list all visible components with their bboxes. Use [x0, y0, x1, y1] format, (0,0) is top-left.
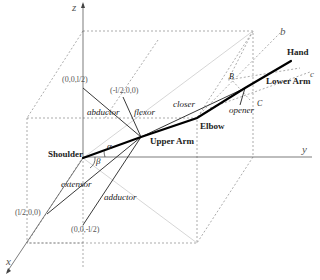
- coord-neg-x-half: (-l/2,0,0): [110, 87, 138, 95]
- coord-z-half: (0,0,l/2): [62, 76, 88, 84]
- adductor-label: adductor: [104, 193, 137, 202]
- alpha-arc: [104, 151, 105, 157]
- x-axis-arrow: [6, 268, 11, 274]
- extensor-label: extensor: [61, 180, 92, 189]
- hand-label: Hand: [287, 48, 309, 57]
- opener-label: opener: [229, 106, 254, 115]
- x-axis-label: x: [6, 256, 11, 267]
- b-axis-label: b: [280, 26, 286, 37]
- point-b-label: B: [229, 73, 234, 81]
- flexor-label: flexor: [134, 108, 155, 117]
- beta-label: β: [96, 157, 100, 166]
- coord-x-half: (l/2,0,0): [15, 209, 41, 217]
- abductor-label: abductor: [87, 108, 120, 117]
- z-axis-label: z: [72, 2, 76, 13]
- coord-neg-z-half: (0,0,-l/2): [71, 226, 99, 234]
- lower-arm-label: Lower Arm: [266, 77, 311, 86]
- shoulder-label: Shoulder: [48, 150, 83, 159]
- elbow-label: Elbow: [200, 122, 225, 131]
- z-axis-arrow: [81, 2, 85, 8]
- upper-arm-label: Upper Arm: [150, 137, 194, 146]
- point-c-label: C: [257, 100, 262, 108]
- y-axis-label: y: [302, 144, 307, 155]
- closer-label: closer: [173, 100, 195, 109]
- alpha-label: α: [107, 142, 112, 151]
